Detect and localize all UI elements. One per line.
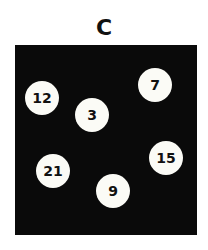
- numbered-ball: 12: [25, 81, 59, 115]
- numbered-ball: 21: [36, 154, 70, 188]
- numbered-ball: 9: [96, 174, 130, 208]
- numbered-ball: 7: [138, 68, 172, 102]
- numbered-ball: 15: [149, 141, 183, 175]
- numbered-ball: 3: [75, 98, 109, 132]
- diagram-title: C: [0, 16, 208, 40]
